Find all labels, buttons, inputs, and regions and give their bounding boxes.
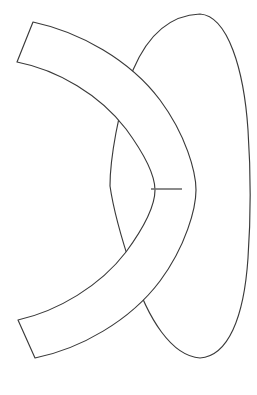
line-drawing-canvas bbox=[0, 0, 257, 395]
figure-container: Line drawing of two overlapping outlined… bbox=[0, 0, 257, 395]
